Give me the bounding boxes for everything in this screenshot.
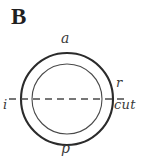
label-cut: cut — [114, 98, 136, 111]
label-anterior: a — [61, 31, 69, 45]
panel-letter-label: B — [11, 5, 27, 28]
inner-circle — [32, 64, 102, 134]
label-posterior: p — [61, 141, 70, 155]
label-inferior: i — [3, 98, 7, 111]
figure-panel-b: B a p i r cut — [0, 0, 144, 166]
label-right: r — [116, 76, 122, 89]
